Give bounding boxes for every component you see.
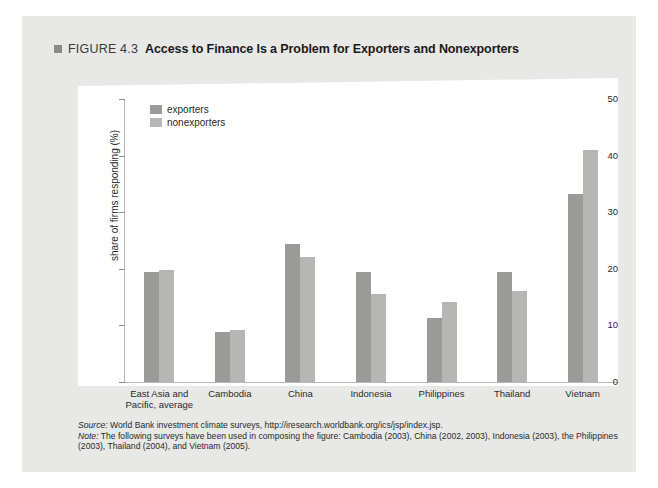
x-axis-label: Philippines — [406, 388, 477, 399]
bar-nonexporters-indonesia — [371, 294, 386, 382]
figure-heading-text: Access to Finance Is a Problem for Expor… — [145, 42, 519, 56]
x-axis-label: China — [265, 388, 336, 399]
bar-nonexporters-thailand — [512, 291, 527, 382]
note-text: The following surveys have been used in … — [78, 431, 618, 452]
bar-exporters-indonesia — [356, 272, 371, 382]
bar-nonexporters-east-asia-and-pacific-average — [159, 270, 174, 382]
square-marker-icon — [54, 45, 62, 53]
bar-exporters-thailand — [497, 272, 512, 382]
figure-panel: FIGURE 4.3 Access to Finance Is a Proble… — [22, 16, 636, 472]
bar-exporters-cambodia — [215, 332, 230, 382]
source-label: Source: — [78, 420, 108, 430]
note-label: Note: — [78, 431, 99, 441]
bar-nonexporters-vietnam — [583, 150, 598, 382]
figure-footnotes: Source: World Bank investment climate su… — [78, 420, 618, 452]
x-axis-label: Indonesia — [336, 388, 407, 399]
x-axis-label: East Asia and Pacific, average — [124, 388, 195, 410]
bar-exporters-vietnam — [568, 194, 583, 382]
figure-title: FIGURE 4.3 Access to Finance Is a Proble… — [54, 42, 519, 56]
chart-bars — [78, 78, 618, 386]
figure-number-label: FIGURE 4.3 — [68, 42, 138, 56]
note-line: Note: The following surveys have been us… — [78, 431, 618, 452]
x-axis-category-labels: East Asia and Pacific, averageCambodiaCh… — [78, 388, 618, 418]
source-text: World Bank investment climate surveys, h… — [110, 420, 443, 430]
bar-nonexporters-cambodia — [230, 330, 245, 382]
bar-exporters-china — [285, 244, 300, 382]
x-axis-label: Vietnam — [547, 388, 618, 399]
chart-plot-area: 01020304050 share of firms responding (%… — [78, 78, 618, 386]
bar-nonexporters-china — [300, 257, 315, 382]
bar-exporters-philippines — [427, 318, 442, 382]
x-axis-label: Cambodia — [195, 388, 266, 399]
source-line: Source: World Bank investment climate su… — [78, 420, 618, 431]
x-axis-label: Thailand — [477, 388, 548, 399]
bar-exporters-east-asia-and-pacific-average — [144, 272, 159, 382]
bar-nonexporters-philippines — [442, 302, 457, 382]
